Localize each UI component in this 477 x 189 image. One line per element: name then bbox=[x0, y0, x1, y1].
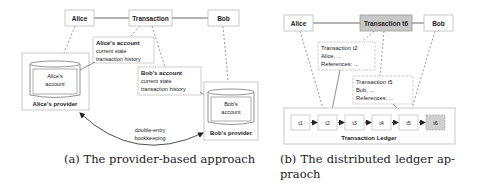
svg-text:transaction history: transaction history bbox=[96, 56, 141, 62]
caption-a: (a) The provider-based approach bbox=[64, 152, 255, 167]
svg-text:Alice's provider: Alice's provider bbox=[33, 101, 78, 107]
ledger-block-t5: t5 bbox=[399, 115, 418, 130]
svg-text:Bob's: Bob's bbox=[224, 101, 238, 107]
svg-text:References: ...: References: ... bbox=[356, 95, 394, 101]
svg-text:t4: t4 bbox=[379, 120, 384, 126]
alice-provider: Alice's account Alice's provider bbox=[22, 53, 89, 110]
svg-text:double-entry: double-entry bbox=[135, 127, 166, 133]
double-entry-arrow: double-entry bookkeeping bbox=[80, 113, 203, 145]
svg-text:Alice, ...: Alice, ... bbox=[321, 53, 342, 59]
caption-b-line2: praoch bbox=[280, 167, 321, 182]
svg-text:Transaction: Transaction bbox=[132, 15, 169, 22]
svg-text:bookkeeping: bookkeeping bbox=[134, 135, 165, 141]
svg-text:Transaction t5: Transaction t5 bbox=[356, 79, 393, 85]
svg-text:current state: current state bbox=[96, 48, 127, 54]
svg-text:transaction history: transaction history bbox=[141, 86, 186, 92]
svg-text:t3: t3 bbox=[352, 120, 357, 126]
svg-text:t1: t1 bbox=[298, 120, 303, 126]
panel-b: Alice Transaction t6 Bob Transaction t2 … bbox=[284, 15, 455, 144]
panel-a: Alice Transaction Bob Alice's account Al… bbox=[22, 10, 258, 145]
actor-alice-a: Alice bbox=[65, 10, 94, 26]
caption-b-line1: (b) The distributed ledger ap- bbox=[280, 152, 455, 167]
ledger-block-t6: t6 bbox=[426, 115, 445, 130]
ledger-block-t2: t2 bbox=[318, 115, 337, 130]
alice-account-db-icon bbox=[30, 61, 80, 98]
svg-text:Bob: Bob bbox=[432, 20, 445, 27]
bob-provider: Bob's account Bob's provider bbox=[204, 82, 258, 140]
svg-text:References: ...: References: ... bbox=[321, 61, 359, 67]
svg-text:Bob, ...: Bob, ... bbox=[356, 87, 375, 93]
ledger-block-t1: t1 bbox=[291, 115, 310, 130]
svg-text:Alice's: Alice's bbox=[47, 73, 63, 79]
svg-text:Transaction t6: Transaction t6 bbox=[364, 20, 408, 27]
svg-text:account: account bbox=[45, 81, 65, 87]
transaction-ledger: t1 t2 t3 t4 t5 t6 bbox=[284, 108, 455, 144]
actor-bob-b: Bob bbox=[424, 15, 453, 31]
svg-text:Alice: Alice bbox=[72, 15, 88, 22]
svg-text:t6: t6 bbox=[433, 120, 438, 126]
actor-bob-a: Bob bbox=[208, 10, 239, 26]
ledger-block-t4: t4 bbox=[372, 115, 391, 130]
svg-text:Transaction t2: Transaction t2 bbox=[321, 45, 358, 51]
actor-transaction-t6: Transaction t6 bbox=[360, 15, 412, 31]
svg-text:Alice's account: Alice's account bbox=[96, 40, 140, 46]
svg-text:Transaction Ledger: Transaction Ledger bbox=[341, 135, 397, 141]
svg-text:Bob's provider: Bob's provider bbox=[210, 130, 253, 136]
ledger-block-t3: t3 bbox=[345, 115, 364, 130]
alice-account-note: Alice's account current state transactio… bbox=[80, 37, 154, 70]
svg-text:t5: t5 bbox=[406, 120, 411, 126]
svg-text:t2: t2 bbox=[325, 120, 330, 126]
svg-text:Alice: Alice bbox=[291, 20, 307, 27]
svg-text:Bob's account: Bob's account bbox=[141, 70, 182, 76]
svg-text:current state: current state bbox=[141, 78, 172, 84]
bob-account-note: Bob's account current state transaction … bbox=[138, 67, 212, 100]
svg-text:Bob: Bob bbox=[217, 15, 230, 22]
svg-text:account: account bbox=[221, 109, 241, 115]
actor-transaction-a: Transaction bbox=[129, 10, 172, 26]
actor-alice-b: Alice bbox=[284, 15, 313, 31]
